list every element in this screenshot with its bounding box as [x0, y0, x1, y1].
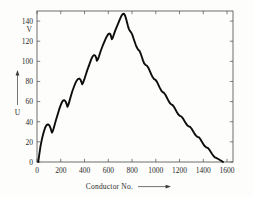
x-tick-label: 800	[126, 166, 138, 175]
y-axis-arrow-icon	[16, 70, 20, 105]
chart-figure: 02004006008001000120014001600 0204060801…	[0, 0, 253, 197]
x-tick-label: 400	[79, 166, 91, 175]
y-tick-label: 40	[26, 118, 34, 127]
x-axis-tick-labels: 02004006008001000120014001600	[35, 166, 235, 175]
x-tick-label: 1000	[148, 166, 163, 175]
y-tick-label: 0	[29, 158, 33, 167]
x-axis-arrow-icon	[138, 185, 171, 189]
x-axis-title: Conductor No.	[86, 182, 133, 191]
x-tick-label: 600	[103, 166, 115, 175]
y-axis-unit-label: V	[27, 25, 33, 34]
y-axis-title: U	[15, 108, 21, 117]
y-tick-label: 60	[26, 97, 34, 106]
x-tick-label: 0	[35, 166, 39, 175]
y-axis-tick-labels: 020406080100120140	[22, 17, 34, 167]
x-tick-label: 1200	[172, 166, 187, 175]
y-tick-label: 20	[26, 138, 34, 147]
y-tick-label: 100	[22, 57, 34, 66]
x-tick-label: 1600	[220, 166, 235, 175]
y-tick-label: 80	[26, 77, 34, 86]
chart-canvas: 02004006008001000120014001600 0204060801…	[0, 0, 253, 197]
x-tick-label: 200	[55, 166, 67, 175]
x-tick-label: 1400	[196, 166, 211, 175]
data-curve-u	[38, 14, 223, 162]
y-tick-label: 120	[22, 37, 34, 46]
plot-frame	[37, 11, 233, 162]
